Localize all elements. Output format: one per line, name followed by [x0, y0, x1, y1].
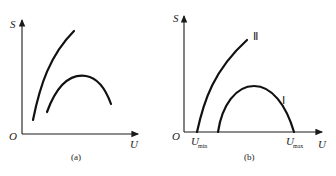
diagram-canvas: S O U (a) S O U Ⅱ Ⅰ U min U max (b): [0, 0, 336, 176]
svg-text:max: max: [293, 143, 303, 149]
panel-b: S O U Ⅱ Ⅰ U min U max (b): [172, 12, 327, 162]
y-axis-label-b: S: [173, 12, 179, 24]
origin-label-a: O: [9, 130, 17, 142]
caption-b: (b): [244, 152, 255, 162]
x-axis-label-b: U: [318, 138, 327, 150]
curve-I-label: Ⅰ: [282, 94, 285, 106]
u-min-label: U min: [191, 135, 207, 149]
y-axis-label-a: S: [10, 18, 16, 30]
x-axis-label-a: U: [130, 138, 139, 150]
u-max-label: U max: [286, 135, 303, 149]
hump-curve-a: [47, 76, 111, 112]
panel-a: S O U (a): [9, 18, 139, 162]
curve-II-label: Ⅱ: [253, 30, 258, 42]
origin-label-b: O: [172, 130, 180, 142]
svg-text:min: min: [198, 143, 207, 149]
rising-curve-a: [33, 31, 74, 120]
caption-a: (a): [71, 152, 81, 162]
curve-I: [218, 86, 294, 132]
